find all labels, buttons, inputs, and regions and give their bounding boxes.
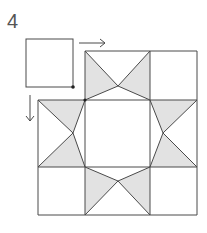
shaded-triangle [150, 100, 197, 133]
corner-dot [71, 85, 75, 89]
corner-dot [83, 98, 86, 101]
offset-corner-square [26, 39, 73, 87]
quilt-block-diagram [0, 0, 207, 233]
shaded-triangle [150, 133, 197, 167]
shaded-triangle [38, 100, 85, 133]
shaded-triangle [38, 133, 85, 167]
